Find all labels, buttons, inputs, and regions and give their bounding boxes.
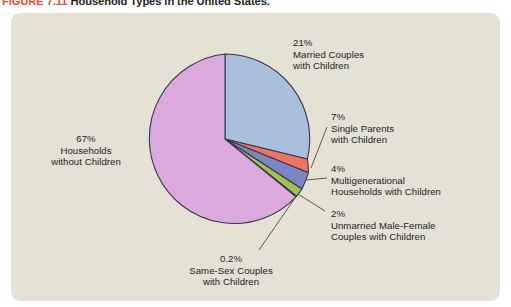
label-multigenerational-line1: Multigenerational	[331, 175, 441, 187]
label-married-couples: 21% Married Couples with Children	[293, 37, 364, 72]
label-same-sex-couples-line1: Same-Sex Couples	[189, 265, 272, 277]
label-single-parents-line1: Single Parents	[331, 123, 394, 135]
label-single-parents: 7% Single Parents with Children	[331, 111, 394, 146]
label-unmarried-male-female-line1: Unmarried Male-Female	[331, 220, 435, 232]
label-households-without-children: 67% Households without Children	[51, 133, 121, 168]
label-unmarried-male-female-line2: Couples with Children	[331, 231, 435, 243]
label-single-parents-percent: 7%	[331, 111, 394, 123]
label-single-parents-line2: with Children	[331, 134, 394, 146]
label-same-sex-couples-line2: with Children	[189, 276, 272, 288]
leader-line-multigenerational	[306, 178, 327, 180]
label-households-without-children-line1: Households	[51, 145, 121, 157]
label-married-couples-percent: 21%	[293, 37, 364, 49]
label-married-couples-line1: Married Couples	[293, 49, 364, 61]
label-multigenerational-percent: 4%	[331, 163, 441, 175]
label-households-without-children-line2: without Children	[51, 156, 121, 168]
leader-line-single-parents	[311, 127, 327, 168]
label-same-sex-couples: 0.2% Same-Sex Couples with Children	[189, 253, 272, 288]
label-multigenerational-line2: Households with Children	[331, 186, 441, 198]
label-same-sex-couples-percent: 0.2%	[189, 253, 272, 265]
label-married-couples-line2: with Children	[293, 60, 364, 72]
label-unmarried-male-female-percent: 2%	[331, 208, 435, 220]
label-unmarried-male-female: 2% Unmarried Male-Female Couples with Ch…	[331, 208, 435, 243]
leader-line-unmarried-male-female	[298, 194, 325, 211]
figure-root: FIGURE 7.11 Household Types in the Unite…	[0, 0, 511, 307]
label-households-without-children-percent: 67%	[51, 133, 121, 145]
label-multigenerational: 4% Multigenerational Households with Chi…	[331, 163, 441, 198]
